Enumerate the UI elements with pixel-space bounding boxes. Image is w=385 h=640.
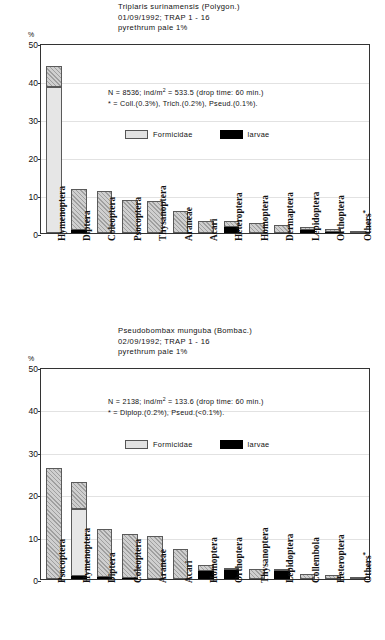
chart-annotation-others: * = Diplop.(0.2%), Pseud.(<0.1%). — [108, 407, 225, 419]
y-axis-unit-label: % — [28, 31, 34, 38]
legend-swatch-formicidae — [125, 440, 148, 449]
x-axis-label-acari: Acari — [184, 561, 194, 583]
y-tick-label-30: 30 — [29, 450, 38, 458]
x-axis-label-hymenoptera: Hymenoptera — [82, 528, 92, 583]
y-tick-label-20: 20 — [29, 155, 38, 163]
legend-item-larvae: larvae — [220, 440, 270, 449]
legend-item-formicidae: Formicidae — [125, 130, 215, 139]
x-axis-label-araneae: Araneae — [158, 549, 168, 583]
x-axis-label-araneae: Araneae — [184, 207, 194, 241]
legend-swatch-formicidae — [125, 130, 148, 139]
chart-legend: Formicidaelarvae — [125, 130, 270, 139]
y-tick-label-0: 0 — [33, 577, 38, 585]
chart-legend: Formicidaelarvae — [125, 440, 270, 449]
x-axis-label-text: Others — [363, 555, 373, 583]
x-axis-label-heteroptera: Heteroptera — [234, 192, 244, 241]
chart-subtitle-method: pyrethrum pale 1% — [118, 347, 252, 358]
chart-annotation-others: * = Coll.(0.3%), Trich.(0.2%), Pseud.(0.… — [108, 98, 258, 110]
annotation-n-pre: N = 8536; ind/m — [108, 88, 163, 97]
chart-panel-bottom: Pseudobombax munguba (Bombac.)02/09/1992… — [0, 320, 385, 640]
x-axis-label-lepidoptera: Lepidoptera — [285, 534, 295, 583]
x-axis-label-thysanoptera: Thysanoptera — [260, 527, 270, 583]
x-axis-label-dermaptera: Dermaptera — [285, 192, 295, 241]
x-axis-label-heteroptera: Heteroptera — [336, 534, 346, 583]
x-axis-label-homoptera: Homoptera — [209, 537, 219, 583]
y-tick-label-40: 40 — [29, 79, 38, 87]
chart-title-block: Triplaris surinamensis (Polygon.)01/09/1… — [118, 2, 240, 34]
x-axis-label-orthoptera: Orthoptera — [234, 537, 244, 583]
x-axis-label-diptera: Diptera — [107, 552, 117, 583]
legend-swatch-larvae — [220, 440, 243, 449]
legend-label-formicidae: Formicidae — [153, 440, 193, 449]
x-axis-label-collembola: Collembola — [311, 537, 321, 583]
chart-title-block: Pseudobombax munguba (Bombac.)02/09/1992… — [118, 326, 252, 358]
chart-panel-top: Triplaris surinamensis (Polygon.)01/09/1… — [0, 0, 385, 320]
legend-item-formicidae: Formicidae — [125, 440, 215, 449]
x-axis-label-diptera: Diptera — [82, 210, 92, 241]
x-axis-label-psocoptera: Psocoptera — [133, 197, 143, 241]
legend-label-larvae: larvae — [248, 130, 270, 139]
x-axis-label-coleoptera: Coleoptera — [107, 197, 117, 241]
chart-subtitle-date: 01/09/1992; TRAP 1 - 16 — [118, 13, 240, 24]
y-tick-label-40: 40 — [29, 407, 38, 415]
x-axis-label-hymenoptera: Hymenoptera — [57, 186, 67, 241]
y-tick-label-30: 30 — [29, 117, 38, 125]
asterisk-marker: * — [361, 552, 369, 556]
y-tick-label-10: 10 — [29, 535, 38, 543]
y-tick-label-0: 0 — [33, 231, 38, 239]
chart-title: Pseudobombax munguba (Bombac.) — [118, 326, 252, 337]
x-axis-label-coleoptera: Coleoptera — [133, 539, 143, 583]
x-axis-label-thysanoptera: Thysanoptera — [158, 185, 168, 241]
chart-subtitle-date: 02/09/1992; TRAP 1 - 16 — [118, 337, 252, 348]
chart-title: Triplaris surinamensis (Polygon.) — [118, 2, 240, 13]
bar-segment-other — [46, 66, 62, 87]
y-tick-label-10: 10 — [29, 193, 38, 201]
bar-segment-other — [71, 482, 87, 509]
legend-label-formicidae: Formicidae — [153, 130, 193, 139]
x-axis-label-homoptera: Homoptera — [260, 195, 270, 241]
y-tick-label-50: 50 — [29, 41, 38, 49]
x-axis-label-psocoptera: Psocoptera — [57, 539, 67, 583]
x-axis-label-acari: Acari — [209, 219, 219, 241]
chart-subtitle-method: pyrethrum pale 1% — [118, 23, 240, 34]
x-axis-label-text: Others — [363, 213, 373, 241]
x-axis-label-others: Others* — [361, 552, 373, 583]
annotation-n-post: = 133.6 (drop time: 60 min.) — [166, 397, 264, 406]
legend-swatch-larvae — [220, 130, 243, 139]
annotation-n-post: = 533.5 (drop time: 60 min.) — [166, 88, 264, 97]
figure-page: Triplaris surinamensis (Polygon.)01/09/1… — [0, 0, 385, 640]
annotation-n-pre: N = 2138; ind/m — [108, 397, 163, 406]
y-axis-unit-label: % — [28, 355, 34, 362]
legend-item-larvae: larvae — [220, 130, 270, 139]
x-axis-label-lepidoptera: Lepidoptera — [311, 192, 321, 241]
x-axis-label-orthoptera: Orthoptera — [336, 195, 346, 241]
y-tick-mark — [38, 235, 41, 236]
y-tick-mark — [38, 581, 41, 582]
y-tick-label-50: 50 — [29, 365, 38, 373]
x-axis-label-others: Others* — [361, 210, 373, 241]
legend-label-larvae: larvae — [248, 440, 270, 449]
y-tick-label-20: 20 — [29, 492, 38, 500]
asterisk-marker: * — [361, 210, 369, 214]
